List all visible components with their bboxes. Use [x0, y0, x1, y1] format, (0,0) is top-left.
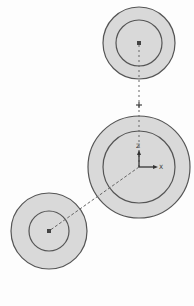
plus-marker-icon[interactable] [136, 102, 142, 108]
z-axis-label: Z [136, 142, 140, 149]
diagram-canvas: Z X [0, 0, 194, 306]
top-circle[interactable] [103, 7, 175, 79]
diagram-svg: Z X [0, 0, 194, 306]
x-axis-label: X [159, 163, 163, 170]
top-circle-center-dot [137, 41, 141, 45]
